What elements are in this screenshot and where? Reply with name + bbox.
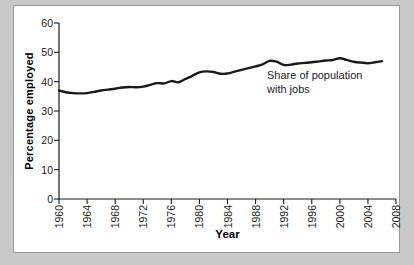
x-axis-tick-label: 1960	[54, 205, 65, 228]
y-axis-tick-label: 30	[41, 106, 53, 117]
page-background: Percentage employed 0102030405060 196019…	[0, 0, 414, 265]
x-axis-tick-label: 1964	[82, 205, 93, 228]
x-axis-tick-label: 1972	[138, 205, 149, 228]
y-axis-tick-label: 0	[47, 194, 53, 205]
y-axis-tick-label: 60	[41, 18, 53, 29]
x-axis-tick-label: 1984	[223, 205, 234, 228]
x-axis-ticks	[59, 199, 396, 204]
x-axis-tick-label: 1988	[251, 205, 262, 228]
x-axis-tick-label: 2008	[391, 205, 402, 228]
y-axis-tick-label: 20	[41, 135, 53, 146]
y-axis-title: Percentage employed	[22, 23, 36, 199]
figure-frame: Percentage employed 0102030405060 196019…	[13, 5, 400, 253]
chart-canvas	[59, 23, 396, 199]
x-axis-tick-label: 2004	[363, 205, 374, 228]
x-axis-tick-label: 1996	[307, 205, 318, 228]
x-axis-tick-label: 1992	[279, 205, 290, 228]
y-axis-ticks	[54, 23, 59, 199]
x-axis-tick-label: 2000	[335, 205, 346, 228]
x-axis-tick-label: 1980	[194, 205, 205, 228]
x-axis-tick-label: 1968	[110, 205, 121, 228]
y-axis-tick-label: 50	[41, 47, 53, 58]
plot-area: 0102030405060 19601964196819721976198019…	[59, 23, 396, 199]
y-axis-tick-label: 40	[41, 76, 53, 87]
series-annotation: Share of population with jobs	[267, 69, 362, 97]
y-axis-tick-label: 10	[41, 164, 53, 175]
x-axis-tick-label: 1976	[166, 205, 177, 228]
x-axis-title: Year	[59, 228, 396, 240]
